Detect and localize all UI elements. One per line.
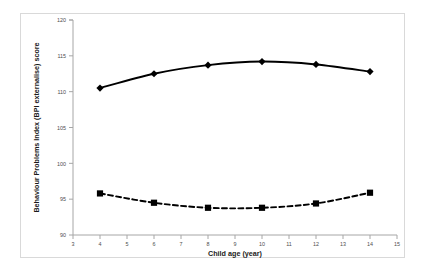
x-tick-label: 4 xyxy=(99,241,102,247)
y-axis-ticks xyxy=(69,20,73,235)
figure-canvas: 120 115 110 105 100 95 90 3 4 xyxy=(0,0,423,272)
x-tick-label: 13 xyxy=(340,241,346,247)
data-point-diamond xyxy=(204,62,211,69)
x-axis-ticks xyxy=(73,235,397,239)
x-tick-label: 6 xyxy=(153,241,156,247)
data-point-square xyxy=(259,205,265,211)
data-point-diamond xyxy=(366,68,373,75)
x-tick-label: 3 xyxy=(72,241,75,247)
y-tick-label: 110 xyxy=(57,89,66,95)
data-point-diamond xyxy=(150,70,157,77)
y-axis-tick-labels: 120 115 110 105 100 95 90 xyxy=(57,17,66,238)
x-tick-label: 5 xyxy=(126,241,129,247)
data-point-square xyxy=(97,190,103,196)
y-tick-label: 115 xyxy=(57,53,66,59)
data-point-square xyxy=(313,200,319,206)
data-point-square xyxy=(205,205,211,211)
data-point-diamond xyxy=(312,61,319,68)
x-tick-label: 10 xyxy=(259,241,265,247)
x-tick-label: 12 xyxy=(313,241,319,247)
x-tick-label: 7 xyxy=(180,241,183,247)
axis-lines xyxy=(73,20,397,235)
line-chart: 120 115 110 105 100 95 90 3 4 xyxy=(0,0,423,272)
x-tick-label: 14 xyxy=(367,241,373,247)
series-solid-line xyxy=(100,62,370,89)
y-tick-label: 90 xyxy=(60,232,66,238)
y-tick-label: 120 xyxy=(57,17,66,23)
x-axis-tick-labels: 3 4 5 6 7 8 9 10 11 12 13 14 15 xyxy=(72,241,401,247)
data-point-square xyxy=(367,190,373,196)
x-tick-label: 8 xyxy=(207,241,210,247)
data-point-diamond xyxy=(96,84,103,91)
data-point-square xyxy=(151,200,157,206)
x-tick-label: 9 xyxy=(234,241,237,247)
y-tick-label: 95 xyxy=(60,196,66,202)
y-tick-label: 100 xyxy=(57,161,66,167)
x-tick-label: 15 xyxy=(394,241,400,247)
series-dashed-series-path xyxy=(100,193,370,209)
y-tick-label: 105 xyxy=(57,125,66,131)
series-dashed-line xyxy=(100,193,370,209)
y-axis-title: Behaviour Problems Index (BPI externalis… xyxy=(32,42,41,212)
x-tick-label: 11 xyxy=(286,241,292,247)
data-point-diamond xyxy=(258,58,265,65)
series-solid-series-path xyxy=(100,62,370,89)
x-axis-title: Child age (year) xyxy=(208,249,263,258)
